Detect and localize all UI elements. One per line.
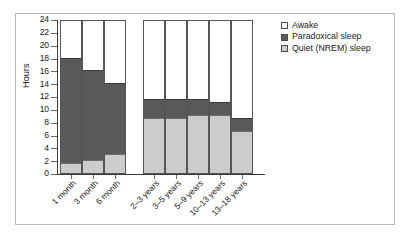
y-axis-title-host: Hours	[30, 0, 31, 1]
bar-segment-nrem	[188, 115, 208, 173]
y-axis-tick-label: 22	[21, 28, 49, 37]
y-axis-tick	[51, 33, 57, 34]
y-axis-tick	[51, 110, 57, 111]
bar-segment-paradoxical	[188, 99, 208, 115]
y-axis-tick-label: 20	[21, 41, 49, 50]
y-axis-tick	[51, 136, 57, 137]
bar-segment-paradoxical	[61, 58, 81, 164]
y-axis-tick-label: 18	[21, 54, 49, 63]
y-axis-tick-label: 8	[21, 118, 49, 127]
legend-swatch-icon	[281, 22, 288, 29]
bar-3-5-years	[165, 20, 187, 174]
chart-legend: AwakeParadoxical sleepQuiet (NREM) sleep	[281, 20, 371, 54]
y-axis-tick-label: 0	[21, 169, 49, 178]
bar-3-month	[82, 20, 104, 174]
y-axis-tick-label: 24	[21, 15, 49, 24]
y-axis-tick-label: 10	[21, 105, 49, 114]
legend-swatch-icon	[281, 45, 288, 52]
bar-segment-nrem	[105, 154, 125, 173]
y-axis-tick	[51, 148, 57, 149]
bar-6-month	[104, 20, 126, 174]
bar-segment-paradoxical	[144, 99, 164, 118]
y-axis-tick-label: 6	[21, 131, 49, 140]
bar-segment-paradoxical	[210, 102, 230, 115]
legend-item-label: Quiet (NREM) sleep	[292, 43, 371, 54]
y-axis-title: Hours	[21, 63, 31, 88]
chart-figure: 024681012141618202224 Hours AwakeParadox…	[0, 0, 408, 238]
bar-1-month	[60, 20, 82, 174]
bar-segment-paradoxical	[105, 83, 125, 154]
bar-2-3-years	[143, 20, 165, 174]
y-axis-tick	[51, 161, 57, 162]
legend-item-label: Paradoxical sleep	[292, 31, 361, 42]
bar-segment-paradoxical	[166, 99, 186, 118]
legend-item-label: Awake	[292, 20, 318, 31]
y-axis-tick-label: 2	[21, 157, 49, 166]
bar-segment-nrem	[166, 118, 186, 173]
bar-segment-nrem	[61, 163, 81, 173]
y-axis-tick-label: 4	[21, 144, 49, 153]
bar-10-13-years	[209, 20, 231, 174]
y-axis-tick	[51, 20, 57, 21]
y-axis-tick	[51, 123, 57, 124]
bar-segment-paradoxical	[232, 118, 252, 131]
bar-13-18-years	[231, 20, 253, 174]
legend-item: Paradoxical sleep	[281, 31, 371, 42]
legend-item: Awake	[281, 20, 371, 31]
y-axis-tick	[51, 97, 57, 98]
bar-segment-nrem	[144, 118, 164, 173]
bar-segment-nrem	[210, 115, 230, 173]
y-axis-tick	[51, 84, 57, 85]
y-axis-tick-labels: 024681012141618202224	[19, 0, 49, 238]
bar-segment-nrem	[83, 160, 103, 173]
legend-item: Quiet (NREM) sleep	[281, 43, 371, 54]
x-axis-line	[57, 174, 265, 175]
y-axis-tick	[51, 174, 57, 175]
y-axis-tick	[51, 46, 57, 47]
bar-segment-nrem	[232, 131, 252, 173]
y-axis-tick-label: 12	[21, 92, 49, 101]
legend-swatch-icon	[281, 34, 288, 41]
bar-segment-paradoxical	[83, 70, 103, 160]
bar-5-9-years	[187, 20, 209, 174]
y-axis-tick	[51, 59, 57, 60]
y-axis-tick	[51, 71, 57, 72]
